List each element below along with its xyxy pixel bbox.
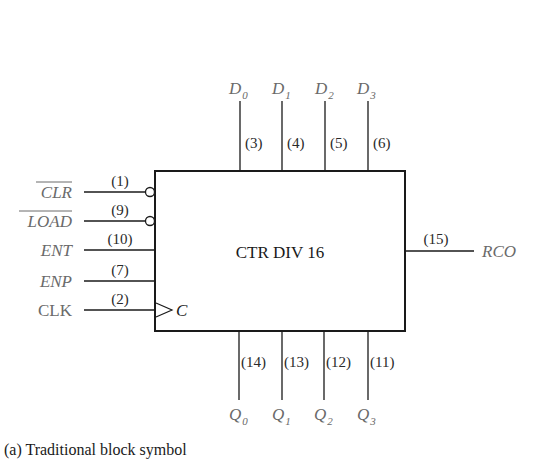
output-q1: (13) Q1: [272, 331, 309, 427]
signal-label: CLR: [41, 183, 73, 202]
signal-label: ENT: [40, 241, 74, 260]
data-input-d3: (6) D3: [356, 79, 391, 171]
signal-label: D1: [271, 79, 291, 101]
pin-label: (10): [108, 231, 133, 248]
pin-label: (3): [245, 135, 263, 152]
clock-triangle-icon: [156, 303, 172, 317]
pin-label: (13): [284, 354, 309, 371]
inversion-bubble-icon: [146, 217, 155, 226]
output-q2: (12) Q2: [314, 331, 351, 427]
pin-label: (15): [424, 231, 449, 248]
block-title: CTR DIV 16: [236, 243, 324, 262]
output-q0: (14) Q0: [229, 331, 266, 427]
signal-label: D0: [228, 79, 248, 101]
signal-label: Q3: [357, 405, 376, 427]
counter-block-diagram: CTR DIV 16 (1) CLR (9) LOAD (10) ENT (7)…: [0, 0, 536, 466]
signal-label: RCO: [481, 242, 516, 261]
signal-label: D3: [356, 79, 376, 101]
signal-label: D2: [314, 79, 334, 101]
signal-label: ENP: [39, 272, 72, 291]
pin-label: (14): [241, 354, 266, 371]
clock-label: C: [176, 301, 188, 320]
pin-label: (1): [111, 173, 129, 190]
signal-label: Q2: [314, 405, 333, 427]
pin-label: (12): [326, 354, 351, 371]
signal-label: LOAD: [27, 212, 73, 231]
output-rco: (15) RCO: [405, 231, 516, 261]
input-enp: (7) ENP: [39, 262, 155, 291]
figure-caption: (a) Traditional block symbol: [4, 441, 187, 459]
inversion-bubble-icon: [146, 188, 155, 197]
input-ent: (10) ENT: [40, 231, 155, 260]
pin-label: (11): [370, 354, 394, 371]
signal-label: Q0: [229, 405, 248, 427]
data-input-d1: (4) D1: [271, 79, 305, 171]
pin-label: (5): [330, 135, 348, 152]
pin-label: (4): [287, 135, 305, 152]
output-q3: (11) Q3: [357, 331, 394, 427]
data-input-d0: (3) D0: [228, 79, 263, 171]
input-clr: (1) CLR: [36, 173, 155, 202]
signal-label: CLK: [38, 301, 73, 320]
input-load: (9) LOAD: [19, 202, 155, 231]
signal-label: Q1: [272, 405, 291, 427]
pin-label: (7): [111, 262, 129, 279]
data-input-d2: (5) D2: [314, 79, 348, 171]
pin-label: (9): [111, 202, 129, 219]
input-clk: (2) CLK C: [38, 291, 188, 320]
pin-label: (6): [373, 135, 391, 152]
pin-label: (2): [111, 291, 129, 308]
